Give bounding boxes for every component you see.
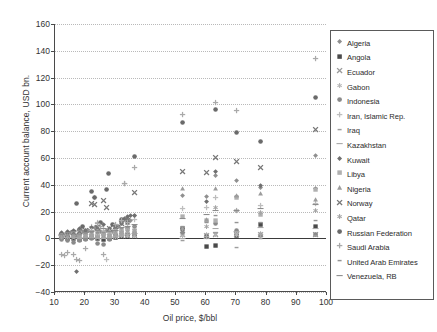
data-point [237, 111, 240, 114]
gridline [55, 51, 326, 52]
data-point [104, 245, 107, 248]
legend: AlgeriaAngolaEcuadorGabonIndonesiaIran, … [330, 30, 434, 300]
y-tick-mark [51, 185, 54, 186]
data-point [134, 225, 137, 228]
data-point [134, 193, 137, 196]
legend-item[interactable]: Angola [335, 51, 430, 66]
x-tick-mark [54, 292, 55, 295]
data-point [80, 261, 83, 264]
x-tick-label: 60 [200, 297, 209, 307]
legend-label: Nigeria [347, 185, 371, 194]
data-point [216, 171, 219, 174]
legend-label: Venezuela, RB [347, 272, 397, 281]
data-point [182, 171, 185, 174]
ecuador-marker-icon [335, 66, 347, 78]
x-tick-mark [266, 292, 267, 295]
y-tick-label: 0 [45, 233, 50, 243]
data-point [315, 221, 318, 224]
legend-item[interactable]: Qatar [335, 211, 430, 226]
data-point [207, 214, 210, 217]
y-tick-label: 20 [41, 207, 50, 217]
y-tick-mark [51, 24, 54, 25]
legend-item[interactable]: United Arab Emirates [335, 255, 430, 270]
gridline [55, 131, 326, 132]
gridline [55, 104, 326, 105]
data-point [182, 238, 185, 241]
data-point [77, 272, 80, 275]
iran-islamic-rep-marker-icon [335, 110, 347, 122]
algeria-marker-icon [335, 37, 347, 49]
data-point [107, 190, 110, 193]
data-point [104, 254, 107, 257]
legend-item[interactable]: Kazakhstan [335, 138, 430, 153]
data-point [182, 218, 185, 221]
x-tick-label: 10 [49, 297, 58, 307]
legend-item[interactable]: Norway [335, 197, 430, 212]
legend-label: Libya [347, 170, 365, 179]
gabon-marker-icon [335, 81, 347, 93]
legend-item[interactable]: Nigeria [335, 182, 430, 197]
qatar-marker-icon [335, 212, 347, 224]
legend-label: Iran, Islamic Rep. [347, 112, 405, 121]
data-point [216, 229, 219, 232]
data-point [77, 203, 80, 206]
legend-item[interactable]: Venezuela, RB [335, 270, 430, 285]
data-point [315, 190, 318, 193]
legend-label: Qatar [347, 214, 366, 223]
legend-item[interactable]: Indonesia [335, 94, 430, 109]
united-arab-emirates-marker-icon [335, 256, 347, 268]
data-point [216, 215, 219, 218]
data-point [237, 231, 240, 234]
data-point [207, 237, 210, 240]
y-tick-label: −40 [36, 287, 50, 297]
data-point [237, 248, 240, 251]
data-point [125, 183, 128, 186]
data-point [237, 210, 240, 213]
legend-item[interactable]: Libya [335, 167, 430, 182]
legend-item[interactable]: Iran, Islamic Rep. [335, 109, 430, 124]
gridline [55, 265, 326, 266]
x-tick-mark [175, 292, 176, 295]
data-point [237, 198, 240, 201]
legend-label: Saudi Arabia [347, 243, 389, 252]
libya-marker-icon [335, 169, 347, 181]
russian-federation-marker-icon [335, 227, 347, 239]
legend-label: Indonesia [347, 97, 379, 106]
legend-item[interactable]: Gabon [335, 80, 430, 95]
y-tick-mark [51, 78, 54, 79]
legend-item[interactable]: Ecuador [335, 65, 430, 80]
legend-item[interactable]: Russian Federation [335, 226, 430, 241]
legend-item[interactable]: Algeria [335, 36, 430, 51]
data-point [86, 249, 89, 252]
legend-label: Ecuador [347, 68, 375, 77]
x-tick-mark [326, 292, 327, 295]
data-point [261, 167, 264, 170]
data-point [182, 229, 185, 232]
data-point [182, 115, 185, 118]
x-tick-mark [235, 292, 236, 295]
legend-label: Kazakhstan [347, 141, 386, 150]
x-tick-label: 30 [110, 297, 119, 307]
y-tick-mark [51, 212, 54, 213]
data-point [216, 110, 219, 113]
data-point [134, 156, 137, 159]
indonesia-marker-icon [335, 96, 347, 108]
data-point [315, 229, 318, 232]
y-tick-label: 140 [36, 46, 50, 56]
x-tick-label: 70 [231, 297, 240, 307]
y-tick-label: 80 [41, 126, 50, 136]
legend-item[interactable]: Saudi Arabia [335, 240, 430, 255]
x-tick-label: 90 [291, 297, 300, 307]
data-point [108, 174, 111, 177]
data-point [315, 236, 318, 239]
x-tick-label: 40 [140, 297, 149, 307]
legend-item[interactable]: Kuwait [335, 153, 430, 168]
legend-item[interactable]: Iraq [335, 124, 430, 139]
y-tick-mark [51, 104, 54, 105]
legend-label: Russian Federation [347, 229, 412, 238]
data-point [237, 181, 240, 184]
y-tick-mark [51, 158, 54, 159]
y-tick-label: 40 [41, 180, 50, 190]
chart-root: Current account balance, USD bn. Oil pri… [0, 0, 437, 332]
data-point [315, 205, 318, 208]
